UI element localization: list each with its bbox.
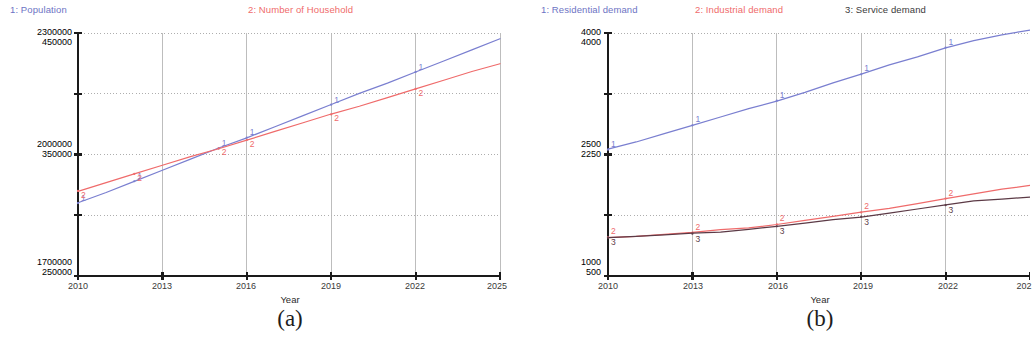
series-marker-label-2: 2: [222, 147, 227, 157]
series-marker-dot-2: [776, 223, 778, 225]
series-marker-dot-1: [776, 100, 778, 102]
series-marker-dot-1: [246, 136, 248, 138]
series-marker-dot-1: [860, 73, 862, 75]
series-marker-label-1: 1: [864, 63, 869, 73]
series-marker-dot-2: [330, 113, 332, 115]
series-marker-label-2: 2: [81, 190, 86, 200]
series-marker-label-2: 2: [334, 113, 339, 123]
x-tick-b-4: 2022: [938, 281, 958, 291]
chart-panel-a: 1: Population 2: Number of Household 230…: [0, 0, 515, 343]
series-marker-label-2: 2: [419, 88, 424, 98]
series-marker-dot-2: [415, 88, 417, 90]
x-tick-a-4: 2022: [405, 281, 425, 291]
series-marker-label-2: 2: [695, 222, 700, 232]
series-marker-label-1: 1: [780, 90, 785, 100]
x-tick-a-0: 2010: [68, 281, 88, 291]
x-tick-b-3: 2019: [853, 281, 873, 291]
series-marker-dot-1: [691, 124, 693, 126]
x-tick-a-5: 2025: [487, 281, 507, 291]
series-marker-dot-2: [945, 197, 947, 199]
series-marker-dot-2: [218, 147, 220, 149]
series-marker-dot-1: [330, 104, 332, 106]
x-tick-b-1: 2013: [683, 281, 703, 291]
series-marker-dot-1: [945, 46, 947, 48]
series-marker-dot-3: [945, 204, 947, 206]
x-tick-b-5: 202: [1016, 281, 1031, 291]
series-marker-dot-3: [691, 233, 693, 235]
series-marker-dot-1: [77, 202, 79, 204]
series-marker-label-2: 2: [949, 188, 954, 198]
x-tick-b-0: 2010: [598, 281, 618, 291]
series-marker-dot-1: [415, 71, 417, 73]
series-marker-label-3: 3: [611, 237, 616, 247]
series-marker-label-1: 1: [419, 62, 424, 72]
series-marker-label-1: 1: [695, 114, 700, 124]
x-tick-b-2: 2016: [768, 281, 788, 291]
series-marker-label-2: 2: [611, 226, 616, 236]
caption-b: (b): [807, 306, 834, 332]
series-marker-label-1: 1: [611, 139, 616, 149]
series-marker-dot-2: [133, 173, 135, 175]
series-marker-label-1: 1: [250, 127, 255, 137]
series-marker-dot-1: [607, 149, 609, 151]
series-marker-label-1: 1: [949, 37, 954, 47]
series-line-1: [608, 30, 1030, 149]
series-line-3: [608, 197, 1030, 238]
series-marker-dot-3: [860, 216, 862, 218]
series-marker-label-3: 3: [949, 205, 954, 215]
plot-area-b: 111112222233333: [515, 0, 1030, 300]
series-marker-label-3: 3: [780, 226, 785, 236]
series-marker-dot-2: [860, 211, 862, 213]
series-marker-label-2: 2: [864, 201, 869, 211]
plot-area-a: 111111222222: [0, 0, 515, 300]
x-tick-a-1: 2013: [152, 281, 172, 291]
series-marker-dot-3: [776, 225, 778, 227]
x-tick-a-3: 2019: [321, 281, 341, 291]
series-marker-dot-1: [133, 180, 135, 182]
x-axis-title-b: Year: [810, 294, 829, 305]
series-line-2: [608, 185, 1030, 237]
caption-a: (a): [277, 306, 303, 332]
series-marker-label-2: 2: [250, 139, 255, 149]
series-marker-label-3: 3: [695, 234, 700, 244]
x-axis-title-a: Year: [280, 294, 299, 305]
x-tick-a-2: 2016: [236, 281, 256, 291]
series-marker-label-3: 3: [864, 217, 869, 227]
series-marker-label-2: 2: [137, 173, 142, 183]
series-marker-dot-3: [607, 236, 609, 238]
chart-panel-b: 1: Residential demand 2: Industrial dema…: [515, 0, 1030, 343]
series-marker-label-1: 1: [334, 95, 339, 105]
series-marker-dot-2: [246, 139, 248, 141]
series-marker-label-2: 2: [780, 213, 785, 223]
series-marker-dot-2: [77, 190, 79, 192]
